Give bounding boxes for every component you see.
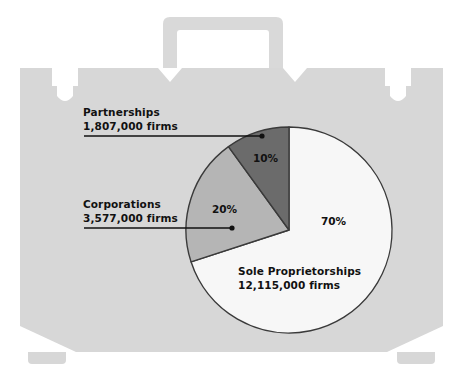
callout-sole-proprietorships-title: Sole Proprietorships [238,265,361,279]
leader-line-partnerships [84,133,265,138]
callout-partnerships: Partnerships 1,807,000 firms [83,106,178,133]
callout-sole-proprietorships: Sole Proprietorships 12,115,000 firms [238,265,361,292]
callout-corporations-title: Corporations [83,198,178,212]
callout-corporations-value: 3,577,000 firms [83,212,178,226]
callout-partnerships-title: Partnerships [83,106,178,120]
callout-partnerships-value: 1,807,000 firms [83,120,178,134]
pie-chart [0,0,463,385]
pie-label-partnerships-percent: 10% [253,152,278,164]
callout-corporations: Corporations 3,577,000 firms [83,198,178,225]
pie-label-sole-proprietorships-percent: 70% [321,215,346,227]
pie-label-corporations-percent: 20% [212,203,237,215]
figure-canvas: Partnerships 1,807,000 firms Corporation… [0,0,463,385]
callout-sole-proprietorships-value: 12,115,000 firms [238,279,361,293]
